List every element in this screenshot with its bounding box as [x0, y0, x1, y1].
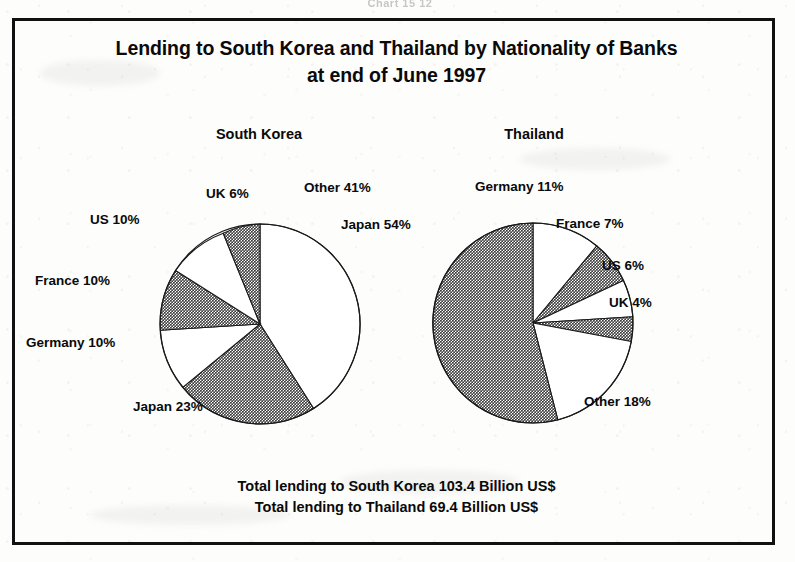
- chart-caption: Total lending to South Korea 103.4 Billi…: [15, 476, 778, 518]
- chart-title-line-1: Lending to South Korea and Thailand by N…: [116, 37, 678, 59]
- label-thailand-us: US 6%: [602, 258, 644, 273]
- label-thailand-germany: Germany 11%: [475, 179, 564, 194]
- label-korea-france: France 10%: [35, 273, 110, 288]
- pie-heading-thailand: Thailand: [474, 126, 594, 142]
- label-thailand-uk: UK 4%: [609, 295, 652, 310]
- label-korea-japan-top: Japan 54%: [341, 217, 411, 232]
- label-korea-us: US 10%: [90, 212, 140, 227]
- chart-frame: Lending to South Korea and Thailand by N…: [12, 18, 775, 545]
- chart-page: Chart 15 12 Lending to South Korea and T…: [0, 0, 795, 562]
- label-korea-uk: UK 6%: [206, 186, 249, 201]
- label-korea-other: Other 41%: [304, 180, 371, 195]
- label-korea-germany: Germany 10%: [26, 335, 115, 350]
- chart-title: Lending to South Korea and Thailand by N…: [15, 35, 778, 89]
- chart-title-line-2: at end of June 1997: [15, 62, 778, 89]
- label-thailand-france: France 7%: [556, 216, 624, 231]
- pie-heading-south-korea: South Korea: [199, 126, 319, 142]
- label-thailand-other: Other 18%: [584, 394, 651, 409]
- caption-line-1: Total lending to South Korea 103.4 Billi…: [15, 476, 778, 497]
- label-korea-japan: Japan 23%: [133, 399, 203, 414]
- caption-line-2: Total lending to Thailand 69.4 Billion U…: [15, 497, 778, 518]
- pie-chart-south-korea: [158, 222, 362, 426]
- pie-svg-south-korea: [158, 222, 362, 426]
- cropped-top-caption: Chart 15 12: [300, 0, 500, 7]
